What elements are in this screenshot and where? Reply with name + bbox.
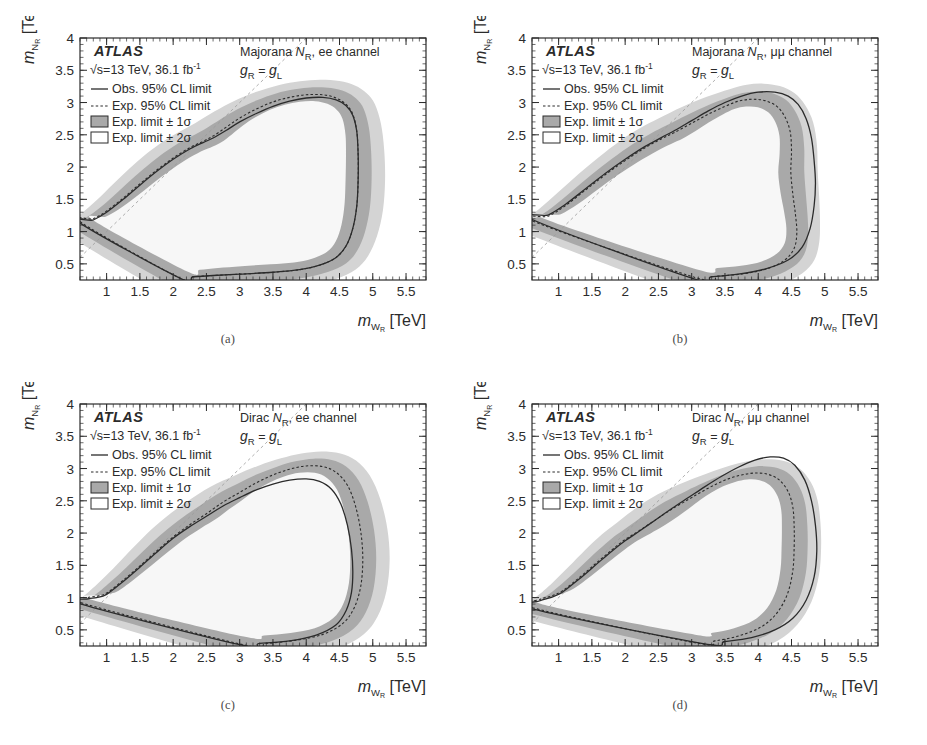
y-tick-label: 1	[66, 225, 74, 240]
legend-1sigma-label: Exp. limit ± 1σ	[564, 481, 643, 495]
y-tick-label: 3	[66, 462, 74, 477]
legend-1sigma-label: Exp. limit ± 1σ	[564, 115, 643, 129]
luminosity-label: √s=13 TeV, 36.1 fb-1	[90, 61, 201, 77]
x-tick-label: 4.5	[330, 650, 349, 665]
x-tick-label: 1	[555, 650, 563, 665]
y-tick-label: 2.5	[55, 494, 74, 509]
legend-1sigma-label: Exp. limit ± 1σ	[112, 481, 191, 495]
y-tick-label: 3.5	[55, 429, 74, 444]
legend-2sigma-label: Exp. limit ± 2σ	[564, 497, 643, 511]
panel-c: 11.522.533.544.555.50.511.522.533.54mWR …	[18, 382, 438, 732]
x-tick-label: 5	[821, 650, 829, 665]
coupling-annotation: gR = gL	[240, 428, 282, 447]
panel-d: 11.522.533.544.555.50.511.522.533.54mWR …	[470, 382, 890, 732]
legend-exp-label: Exp. 95% CL limit	[564, 465, 663, 479]
x-tick-label: 5.5	[849, 650, 868, 665]
legend-obs-label: Obs. 95% CL limit	[112, 448, 212, 462]
y-tick-label: 2.5	[507, 494, 526, 509]
legend-obs-label: Obs. 95% CL limit	[112, 82, 212, 96]
x-tick-label: 1.5	[130, 650, 149, 665]
atlas-label: ATLAS	[93, 43, 143, 59]
y-axis-title: mNR [TeV]	[472, 16, 493, 64]
x-tick-label: 1.5	[130, 284, 149, 299]
x-tick-label: 2.5	[197, 284, 216, 299]
svg-text:mNR [TeV]: mNR [TeV]	[472, 16, 493, 64]
x-axis-title: mWR [TeV]	[358, 678, 426, 699]
legend-1sigma-swatch	[91, 482, 108, 493]
legend-2sigma-label: Exp. limit ± 2σ	[112, 497, 191, 511]
panel-b: 11.522.533.544.555.50.511.522.533.54mWR …	[470, 16, 890, 366]
coupling-annotation: gR = gL	[692, 428, 734, 447]
plot-b: 11.522.533.544.555.50.511.522.533.54mWR …	[470, 16, 890, 366]
legend: ATLAS√s=13 TeV, 36.1 fb-1Obs. 95% CL lim…	[90, 409, 212, 511]
panel-a: 11.522.533.544.555.50.511.522.533.54mWR …	[18, 16, 438, 366]
y-tick-label: 3	[518, 96, 526, 111]
legend-2sigma-swatch	[91, 132, 108, 143]
y-tick-label: 4	[66, 397, 74, 412]
plot-d: 11.522.533.544.555.50.511.522.533.54mWR …	[470, 382, 890, 732]
x-axis-title: mWR [TeV]	[810, 678, 878, 699]
x-tick-label: 1.5	[582, 650, 601, 665]
panel-annotation: Dirac NR, μμ channel	[692, 411, 809, 428]
x-tick-label: 5.5	[849, 284, 868, 299]
x-tick-label: 4.5	[782, 650, 801, 665]
caption-c: (c)	[18, 698, 438, 713]
y-tick-label: 4	[518, 31, 526, 46]
x-tick-label: 4	[754, 284, 762, 299]
plot-area-c: 11.522.533.544.555.50.511.522.533.54mWR …	[20, 382, 426, 699]
x-tick-label: 1	[103, 650, 111, 665]
x-tick-label: 2.5	[649, 650, 668, 665]
x-tick-label: 3.5	[264, 284, 283, 299]
x-tick-label: 3	[236, 650, 244, 665]
plot-area-d: 11.522.533.544.555.50.511.522.533.54mWR …	[472, 382, 878, 699]
legend-exp-label: Exp. 95% CL limit	[564, 99, 663, 113]
y-tick-label: 0.5	[507, 257, 526, 272]
x-tick-label: 3	[688, 650, 696, 665]
legend-2sigma-swatch	[91, 498, 108, 509]
y-tick-label: 3.5	[507, 63, 526, 78]
legend-1sigma-swatch	[91, 116, 108, 127]
x-tick-label: 3.5	[264, 650, 283, 665]
y-tick-label: 1	[66, 591, 74, 606]
x-tick-label: 1.5	[582, 284, 601, 299]
x-tick-label: 2.5	[197, 650, 216, 665]
luminosity-label: √s=13 TeV, 36.1 fb-1	[542, 427, 653, 443]
x-tick-label: 5	[369, 284, 377, 299]
x-tick-label: 3.5	[716, 284, 735, 299]
x-tick-label: 4	[302, 284, 310, 299]
x-tick-label: 2.5	[649, 284, 668, 299]
x-tick-label: 4	[302, 650, 310, 665]
legend-2sigma-swatch	[543, 498, 560, 509]
y-tick-label: 0.5	[507, 623, 526, 638]
coupling-annotation: gR = gL	[240, 62, 282, 81]
x-tick-label: 3	[688, 284, 696, 299]
y-tick-label: 3	[66, 96, 74, 111]
caption-a: (a)	[18, 332, 438, 347]
y-tick-label: 2.5	[55, 128, 74, 143]
svg-text:mNR [TeV]: mNR [TeV]	[472, 382, 493, 430]
legend-1sigma-swatch	[543, 116, 560, 127]
plot-a: 11.522.533.544.555.50.511.522.533.54mWR …	[18, 16, 438, 366]
caption-d: (d)	[470, 698, 890, 713]
caption-b: (b)	[470, 332, 890, 347]
atlas-label: ATLAS	[545, 43, 595, 59]
atlas-label: ATLAS	[93, 409, 143, 425]
y-tick-label: 3	[518, 462, 526, 477]
x-axis-title: mWR [TeV]	[358, 312, 426, 333]
y-tick-label: 1	[518, 225, 526, 240]
x-tick-label: 3	[236, 284, 244, 299]
luminosity-label: √s=13 TeV, 36.1 fb-1	[90, 427, 201, 443]
panel-annotation: Majorana NR, ee channel	[240, 45, 380, 62]
y-tick-label: 2	[518, 526, 526, 541]
x-tick-label: 2	[621, 650, 629, 665]
x-tick-label: 1	[555, 284, 563, 299]
legend-exp-label: Exp. 95% CL limit	[112, 99, 211, 113]
x-tick-label: 4.5	[330, 284, 349, 299]
y-tick-label: 1	[518, 591, 526, 606]
x-tick-label: 2	[169, 650, 177, 665]
plot-area-a: 11.522.533.544.555.50.511.522.533.54mWR …	[20, 16, 426, 333]
x-tick-label: 2	[169, 284, 177, 299]
legend-1sigma-label: Exp. limit ± 1σ	[112, 115, 191, 129]
y-tick-label: 0.5	[55, 257, 74, 272]
panel-annotation: Dirac NR, ee channel	[240, 411, 357, 428]
